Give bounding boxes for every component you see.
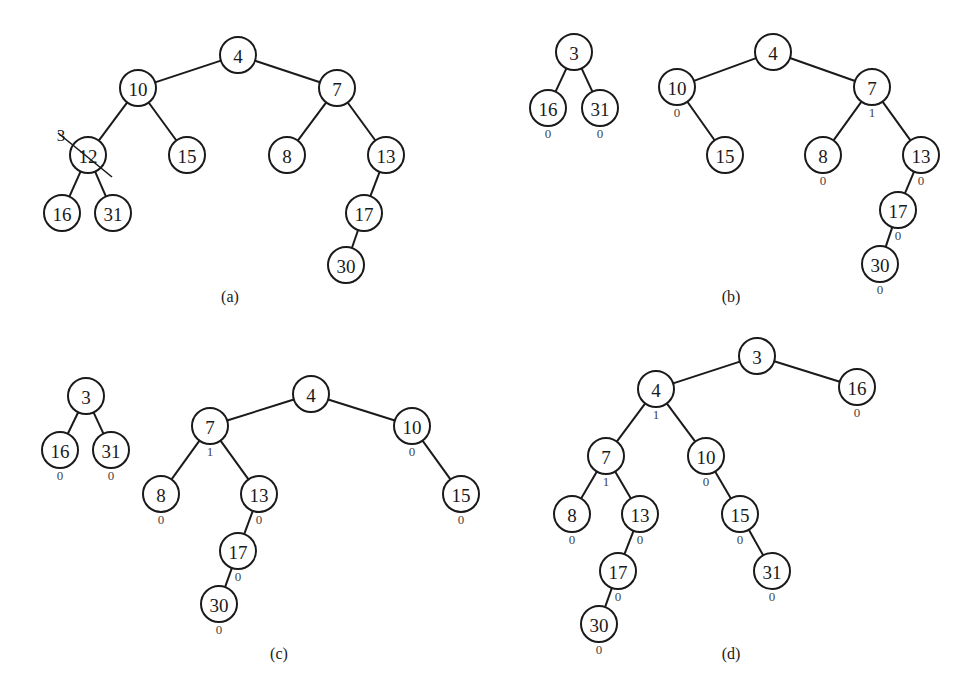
node-rank: 0 xyxy=(854,405,861,420)
panel-caption: (b) xyxy=(722,288,741,306)
tree-edge xyxy=(255,61,320,83)
tree-edge xyxy=(581,472,597,499)
tree-node: 7 xyxy=(319,70,355,106)
tree-node: 31 xyxy=(93,432,129,468)
node-label: 4 xyxy=(233,46,243,67)
node-label: 15 xyxy=(178,146,197,167)
panel-caption: (c) xyxy=(270,645,288,663)
panel-caption: (d) xyxy=(722,645,741,663)
node-rank: 1 xyxy=(207,444,214,459)
node-rank: 0 xyxy=(877,282,884,297)
tree-node: 8 xyxy=(269,137,305,173)
node-label: 8 xyxy=(818,146,828,167)
tree-node: 13 xyxy=(622,496,658,532)
node-label: 31 xyxy=(102,441,121,462)
tree-node: 3 xyxy=(556,34,592,70)
node-label: 13 xyxy=(631,505,650,526)
node-label: 31 xyxy=(763,562,782,583)
tree-edge xyxy=(95,172,106,197)
tree-edge xyxy=(615,472,631,499)
tree-edge xyxy=(556,68,567,91)
node-label: 10 xyxy=(403,417,422,438)
tree-edge xyxy=(749,530,763,556)
tree-edge xyxy=(905,172,914,194)
tree-node: 4 xyxy=(755,34,791,70)
node-rank: 0 xyxy=(569,532,576,547)
tree-node: 31 xyxy=(754,553,790,589)
tree-edge xyxy=(582,68,593,91)
node-label: 31 xyxy=(104,204,123,225)
node-rank: 0 xyxy=(235,569,242,584)
node-label: 30 xyxy=(871,255,890,276)
tree-node: 16 xyxy=(42,432,78,468)
tree-edge xyxy=(605,588,612,607)
tree-node: 8 xyxy=(805,137,841,173)
node-label: 16 xyxy=(539,99,558,120)
tree-edge xyxy=(667,403,695,441)
node-rank: 0 xyxy=(615,589,622,604)
node-rank: 0 xyxy=(674,105,681,120)
node-rank: 0 xyxy=(895,228,902,243)
tree-node: 4 xyxy=(293,376,329,412)
node-label: 10 xyxy=(668,78,687,99)
node-label: 30 xyxy=(590,615,609,636)
node-label: 4 xyxy=(768,43,778,64)
diagram-canvas: 4107123158131631173031631410715813173031… xyxy=(0,0,980,699)
tree-edge xyxy=(694,58,756,81)
tree-node: 10 xyxy=(659,69,695,105)
node-rank: 0 xyxy=(409,444,416,459)
tree-node: 16 xyxy=(530,90,566,126)
node-rank: 1 xyxy=(653,407,660,422)
node-rank: 0 xyxy=(256,512,263,527)
tree-node: 4 xyxy=(220,37,256,73)
node-label: 17 xyxy=(609,562,628,583)
tree-edge xyxy=(715,472,731,499)
tree-node: 10 xyxy=(120,70,156,106)
tree-node: 30 xyxy=(581,606,617,642)
labels-layer: (a)00010000(b)001000000(c)1010000000(d) xyxy=(57,105,925,663)
tree-edge xyxy=(298,102,326,140)
tree-node: 17 xyxy=(600,553,636,589)
tree-edge xyxy=(687,102,714,141)
tree-edge xyxy=(149,103,177,141)
tree-node: 8 xyxy=(143,476,179,512)
tree-node: 7 xyxy=(854,69,890,105)
tree-edge xyxy=(617,403,645,441)
tree-edge xyxy=(99,102,127,140)
node-label: 17 xyxy=(355,204,374,225)
node-label: 3 xyxy=(569,43,579,64)
tree-edge xyxy=(790,58,855,81)
node-label: 7 xyxy=(332,79,342,100)
tree-node: 15 xyxy=(707,137,743,173)
tree-node: 7 xyxy=(588,438,624,474)
tree-edge xyxy=(624,531,633,554)
tree-node: 17 xyxy=(220,533,256,569)
node-rank: 0 xyxy=(57,468,64,483)
tree-edge xyxy=(328,399,395,420)
node-rank: 0 xyxy=(637,532,644,547)
tree-node: 17 xyxy=(880,192,916,228)
tree-edge xyxy=(155,61,221,83)
nodes-layer: 4107123158131631173031631410715813173031… xyxy=(42,34,939,642)
replacement-key: 3 xyxy=(57,126,66,145)
tree-node: 3 xyxy=(739,338,775,374)
tree-edge xyxy=(68,412,78,434)
tree-node: 7 xyxy=(192,408,228,444)
node-label: 8 xyxy=(156,485,166,506)
tree-edge xyxy=(244,511,253,534)
tree-edge xyxy=(886,227,893,247)
tree-node: 4 xyxy=(638,371,674,407)
tree-edge xyxy=(834,102,862,141)
node-label: 3 xyxy=(752,347,762,368)
node-label: 7 xyxy=(205,417,215,438)
node-rank: 1 xyxy=(869,105,876,120)
tree-node: 13 xyxy=(903,137,939,173)
node-label: 16 xyxy=(51,441,70,462)
node-rank: 0 xyxy=(737,532,744,547)
tree-node: 15 xyxy=(169,137,205,173)
tree-node: 10 xyxy=(394,408,430,444)
tree-node: 15 xyxy=(722,496,758,532)
tree-node: 16 xyxy=(839,369,875,405)
tree-edge xyxy=(774,361,840,381)
tree-node: 15 xyxy=(443,476,479,512)
